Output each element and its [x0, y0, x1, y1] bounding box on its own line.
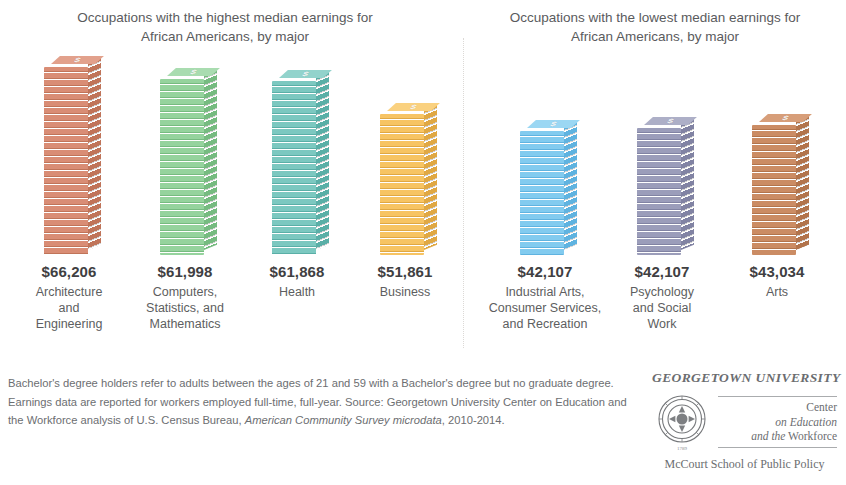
georgetown-logo: GEORGETOWN UNIVERSITY: [652, 370, 837, 472]
bar-side-face: [564, 121, 577, 250]
bar-side-face: [88, 57, 101, 250]
bar-top-face: $: [527, 120, 580, 128]
footnote: Bachelor's degree holders refer to adult…: [8, 374, 628, 430]
footnote-line-4: , 2010-2014.: [442, 414, 505, 426]
bar-category-label: Business: [330, 284, 480, 300]
bar-psychology-and-social-work: $: [637, 128, 697, 255]
bar-stack: $: [520, 131, 564, 255]
footnote-line-3-italic: American: [245, 414, 292, 426]
logo-school-name: McCourt School of Public Policy: [652, 457, 837, 472]
bar-business: $: [380, 114, 440, 255]
logo-center-line-3: Workforce: [788, 430, 837, 442]
dollar-sign-icon: $: [73, 56, 83, 63]
bar-stack: $: [380, 114, 424, 255]
bar-stack: $: [637, 128, 681, 255]
bar-stack: $: [752, 125, 796, 255]
dollar-sign-icon: $: [409, 103, 419, 110]
bar-stack: $: [44, 67, 88, 255]
dollar-sign-icon: $: [189, 68, 199, 75]
bar-side-face: [424, 104, 437, 250]
bar-value-label: $43,034: [702, 263, 846, 280]
footnote-line-1: Bachelor's degree holders refer to adult…: [8, 377, 491, 389]
bar-arts: $: [752, 125, 812, 255]
bar-front-face: [44, 67, 88, 255]
bar-stack: $: [272, 81, 316, 255]
bar-front-face: [160, 79, 204, 255]
bar-top-face: $: [759, 114, 812, 122]
bar-front-face: [520, 131, 564, 255]
bar-side-face: [316, 71, 329, 250]
bar-top-face: $: [167, 68, 220, 76]
bar-side-face: [681, 118, 694, 250]
bar-value-label: $51,861: [330, 263, 480, 280]
bar-health: $: [272, 81, 332, 255]
bar-side-face: [796, 115, 809, 250]
category-line: Arts: [702, 284, 846, 300]
bar-computers-statistics-mathematics: $: [160, 79, 220, 255]
georgetown-wordmark: GEORGETOWN UNIVERSITY: [652, 370, 837, 386]
georgetown-seal-icon: 1789: [652, 390, 712, 452]
bar-front-face: [380, 114, 424, 255]
bar-top-face: $: [387, 103, 440, 111]
logo-center-line-2: on Education: [775, 416, 837, 428]
dollar-sign-icon: $: [781, 114, 791, 121]
bar-front-face: [752, 125, 796, 255]
bar-architecture-and-engineering: $: [44, 67, 104, 255]
bar-front-face: [272, 81, 316, 255]
bar-top-face: $: [51, 56, 104, 64]
dollar-sign-icon: $: [666, 117, 676, 124]
dollar-sign-icon: $: [301, 70, 311, 77]
logo-center-line-3-italic: and the: [751, 430, 785, 442]
category-line: Statistics, and: [110, 300, 260, 316]
bar-top-face: $: [644, 117, 697, 125]
bar-top-face: $: [279, 70, 332, 78]
bar-side-face: [204, 69, 217, 250]
dollar-sign-icon: $: [549, 120, 559, 127]
category-line: Work: [587, 316, 737, 332]
svg-text:1789: 1789: [677, 446, 688, 451]
category-line: and Social: [587, 300, 737, 316]
category-line: Mathematics: [110, 316, 260, 332]
footnote-line-4-italic: Community Survey microdata: [295, 414, 442, 426]
category-line: Business: [330, 284, 480, 300]
bar-category-label: Arts: [702, 284, 846, 300]
bar-industrial-arts-consumer-services-recreation: $: [520, 131, 580, 255]
bar-stack: $: [160, 79, 204, 255]
bar-front-face: [637, 128, 681, 255]
logo-center-line-1: Center: [718, 400, 837, 415]
